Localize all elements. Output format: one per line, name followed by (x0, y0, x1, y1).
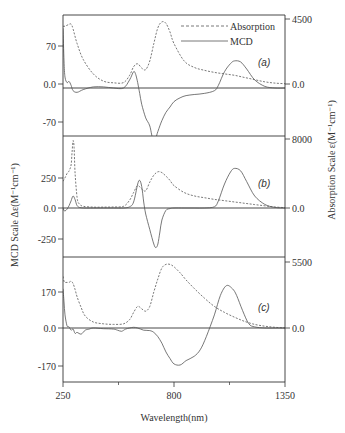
panel-label-c: (c) (258, 302, 270, 313)
x-tick-label: 250 (56, 390, 71, 401)
mcd-tick-label: -250 (38, 234, 56, 245)
mcd-tick-label: 250 (41, 173, 56, 184)
abs-tick-label: 0.0 (292, 323, 305, 334)
absorption-curve (63, 264, 285, 328)
panel-b (63, 141, 285, 248)
panel-label-a: (a) (258, 57, 270, 68)
panel-c (63, 264, 285, 365)
mcd-tick-label: 0.0 (44, 79, 57, 90)
mcd-tick-label: 0.0 (44, 203, 57, 214)
absorption-curve (63, 141, 285, 208)
mcd-tick-label: 170 (41, 287, 56, 298)
mcd-curve (63, 285, 285, 365)
abs-tick-label: 0.0 (292, 79, 305, 90)
mcd-absorption-chart: 700.0-7045000.02500.0-25080000.01700.0-1… (0, 0, 345, 433)
abs-tick-label: 8000 (292, 134, 312, 145)
mcd-tick-label: -170 (38, 361, 56, 372)
abs-tick-label: 4500 (292, 14, 312, 25)
left-axis-title: MCD Scale Δε(M⁻¹cm⁻¹) (9, 163, 21, 267)
mcd-tick-label: 70 (46, 41, 56, 52)
abs-tick-label: 5500 (292, 257, 312, 268)
x-tick-label: 1350 (275, 390, 295, 401)
mcd-tick-label: 0.0 (44, 323, 57, 334)
panel-label-b: (b) (258, 178, 270, 189)
x-tick-label: 800 (167, 390, 182, 401)
abs-tick-label: 0.0 (292, 203, 305, 214)
x-axis-title: Wavelength(nm) (141, 412, 208, 424)
plot-frame (58, 15, 290, 387)
legend-absorption-label: Absorption (230, 21, 275, 32)
mcd-tick-label: -70 (43, 117, 56, 128)
legend-mcd-label: MCD (230, 36, 253, 47)
legend: Absorption MCD (181, 21, 275, 47)
right-axis-title: Absorption Scale ε(M⁻¹cm⁻¹) (326, 100, 338, 220)
plot-curves (63, 22, 285, 366)
